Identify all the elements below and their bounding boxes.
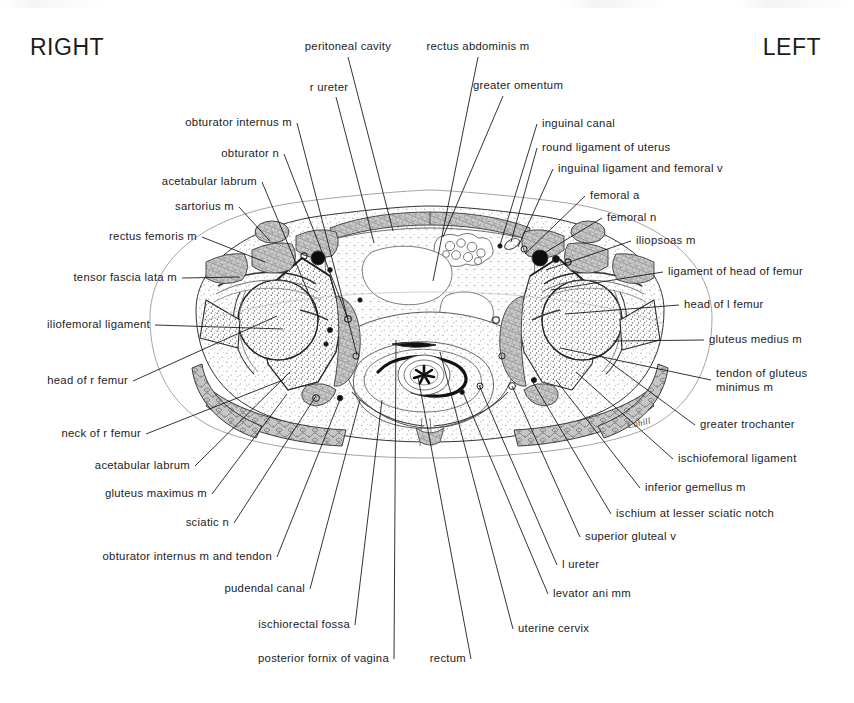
label-sartorius-m: sartorius m xyxy=(175,200,234,214)
label-obturator-internus-m-and-tendon: obturator internus m and tendon xyxy=(103,550,272,564)
label-ischiorectal-fossa: ischiorectal fossa xyxy=(258,618,350,632)
label-ischiofemoral-ligament: ischiofemoral ligament xyxy=(678,452,797,466)
label-rectus-abdominis-m: rectus abdominis m xyxy=(427,40,530,54)
label-head-of-r-femur: head of r femur xyxy=(47,374,128,388)
label-femoral-a: femoral a xyxy=(590,189,640,203)
label-obturator-n: obturator n xyxy=(221,147,279,161)
label-inguinal-canal: inguinal canal xyxy=(542,117,615,131)
label-rectum: rectum xyxy=(430,652,466,666)
label-gluteus-medius-m: gluteus medius m xyxy=(709,333,802,347)
label-ligament-of-head-of-femur: ligament of head of femur xyxy=(668,265,803,279)
label-iliofemoral-ligament: iliofemoral ligament xyxy=(47,318,150,332)
label-superior-gluteal-v: superior gluteal v xyxy=(585,530,676,544)
label-round-ligament-of-uterus: round ligament of uterus xyxy=(542,141,671,155)
label-sciatic-n: sciatic n xyxy=(186,516,229,530)
label-pudendal-canal: pudendal canal xyxy=(224,582,305,596)
label-femoral-n: femoral n xyxy=(607,211,657,225)
label-l-ureter: l ureter xyxy=(562,558,599,572)
label-inferior-gemellus-m: inferior gemellus m xyxy=(645,481,746,495)
label-gluteus-maximus-m: gluteus maximus m xyxy=(105,487,207,501)
label-ischium-at-lesser-sciatic-notch: ischium at lesser sciatic notch xyxy=(616,507,774,521)
artist-signature: Cahill xyxy=(626,415,651,430)
diagram-page: RIGHT LEFT xyxy=(0,0,854,703)
scan-artifact xyxy=(0,0,854,8)
label-iliopsoas-m: iliopsoas m xyxy=(636,234,696,248)
label-rectus-femoris-m: rectus femoris m xyxy=(109,230,197,244)
label-uterine-cervix: uterine cervix xyxy=(518,622,589,636)
label-posterior-fornix-of-vagina: posterior fornix of vagina xyxy=(258,652,389,666)
label-tensor-fascia-lata-m: tensor fascia lata m xyxy=(73,271,177,285)
label-inguinal-ligament-and-femoral-v: inguinal ligament and femoral v xyxy=(558,162,723,176)
orientation-label-left: LEFT xyxy=(763,34,821,61)
label-greater-omentum: greater omentum xyxy=(473,79,563,93)
label-head-of-l-femur: head of l femur xyxy=(684,298,764,312)
anatomical-illustration xyxy=(0,0,854,703)
label-neck-of-r-femur: neck of r femur xyxy=(61,427,141,441)
label-r-ureter: r ureter xyxy=(310,81,349,95)
label-acetabular-labrum-sup: acetabular labrum xyxy=(162,175,257,189)
label-peritoneal-cavity: peritoneal cavity xyxy=(305,40,391,54)
label-obturator-internus-m: obturator internus m xyxy=(185,116,292,130)
leader-lines xyxy=(0,0,854,703)
label-acetabular-labrum-inf: acetabular labrum xyxy=(95,459,190,473)
orientation-label-right: RIGHT xyxy=(30,34,104,61)
label-greater-trochanter: greater trochanter xyxy=(700,418,795,432)
label-levator-ani-mm: levator ani mm xyxy=(553,587,631,601)
label-tendon-of-gluteus-minimus-m: tendon of gluteusminimus m xyxy=(716,367,807,394)
